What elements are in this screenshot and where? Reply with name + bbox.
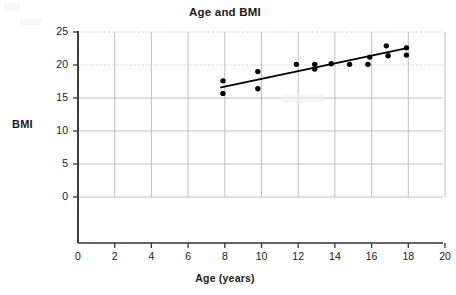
x-tick-label: 0 — [66, 250, 90, 262]
scan-artifact — [4, 2, 20, 11]
y-tick-label: 5 — [34, 157, 68, 169]
x-tick-label: 20 — [433, 250, 456, 262]
data-points — [220, 43, 409, 96]
x-tick-label: 16 — [360, 250, 384, 262]
x-tick-label: 6 — [176, 250, 200, 262]
x-tick-label: 4 — [139, 250, 163, 262]
x-tick-label: 18 — [396, 250, 420, 262]
tick-marks — [73, 32, 445, 248]
x-tick-label: 2 — [103, 250, 127, 262]
y-tick-label: 0 — [34, 190, 68, 202]
y-tick-label: 25 — [34, 25, 68, 37]
scan-artifact — [282, 94, 324, 103]
x-tick-label: 10 — [250, 250, 274, 262]
y-tick-label: 20 — [34, 58, 68, 70]
axes — [78, 31, 443, 243]
x-tick-label: 14 — [323, 250, 347, 262]
y-tick-label: 10 — [34, 124, 68, 136]
x-tick-label: 8 — [213, 250, 237, 262]
scan-artifact — [20, 18, 42, 25]
y-tick-label: 15 — [34, 91, 68, 103]
x-tick-label: 12 — [286, 250, 310, 262]
